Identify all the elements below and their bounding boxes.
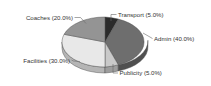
pie-chart-figure: Transport (5.0%) Admin (40.0%) Publicity… [0,0,211,86]
pie-top-faces [62,17,144,67]
pie-chart-canvas: Transport (5.0%) Admin (40.0%) Publicity… [0,0,211,86]
slice-label-facilities: Facilities (30.0%) [23,57,70,64]
slice-label-admin: Admin (40.0%) [154,35,194,42]
slice-label-publicity: Publicity (5.0%) [120,69,162,76]
slice-label-coaches: Coaches (20.0%) [26,14,73,21]
slice-label-transport: Transport (5.0%) [118,11,164,18]
